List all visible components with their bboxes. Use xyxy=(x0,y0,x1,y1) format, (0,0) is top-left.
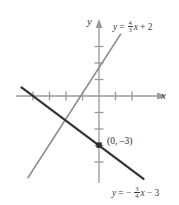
point-marker-0-neg3 xyxy=(96,142,101,147)
coordinate-graph-figure: x y y = 4 3 x + 2 y = − 3 4 x − 3 (0, –3… xyxy=(0,0,179,205)
equation-line2-variable: x xyxy=(141,189,145,199)
equation-line2-numerator: 3 xyxy=(134,186,139,193)
y-axis-label: y xyxy=(87,16,92,27)
x-axis xyxy=(16,93,166,100)
equation-label-line2: y = − 3 4 x − 3 xyxy=(112,186,159,201)
equation-line1-numerator: 4 xyxy=(128,20,133,27)
equation-line1-variable: x xyxy=(134,23,138,33)
equation-line1-equals: = xyxy=(119,23,124,33)
equation-line2-fraction: 3 4 xyxy=(134,186,139,201)
line-negative-slope xyxy=(22,87,144,179)
equation-line2-equals: = − xyxy=(118,189,131,199)
equation-label-line1: y = 4 3 x + 2 xyxy=(113,20,153,35)
y-axis xyxy=(96,19,103,183)
equation-line2-constant: − 3 xyxy=(147,189,159,199)
line-positive-slope xyxy=(28,34,121,177)
equation-line2-denominator: 4 xyxy=(134,192,139,200)
x-axis-label: x xyxy=(161,90,166,101)
point-coordinate-label: (0, –3) xyxy=(107,137,132,147)
equation-line2-y: y xyxy=(112,189,116,199)
equation-line1-y: y xyxy=(113,23,117,33)
equation-line1-denominator: 3 xyxy=(128,26,133,34)
equation-line1-fraction: 4 3 xyxy=(128,20,133,35)
equation-line1-constant: + 2 xyxy=(140,23,152,33)
